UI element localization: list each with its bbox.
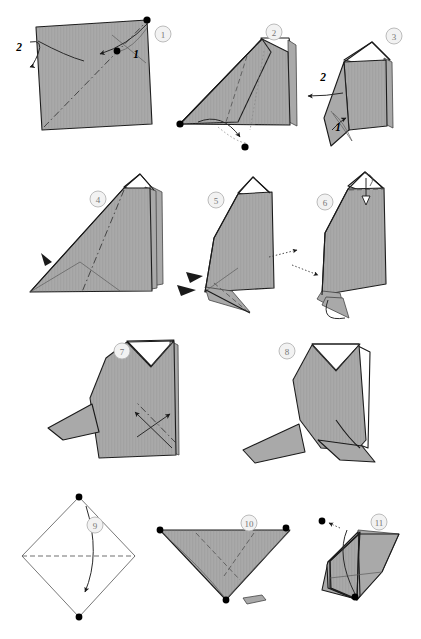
step-3-badge-number: 3 bbox=[392, 32, 397, 42]
step-10-badge: 10 bbox=[241, 515, 257, 531]
step-10-badge-number: 10 bbox=[245, 519, 255, 529]
step-3-texture bbox=[344, 60, 387, 130]
step-6-badge: 6 bbox=[317, 194, 333, 210]
step-2-reference-dot-left bbox=[176, 120, 183, 127]
step-3-badge: 3 bbox=[386, 28, 402, 44]
step-9-reference-dot-top bbox=[76, 494, 83, 501]
step-1-label-2: 2 bbox=[15, 41, 22, 53]
step-8-badge-number: 8 bbox=[285, 347, 290, 357]
step-3-label-1: 1 bbox=[335, 121, 341, 133]
step-3-label-2: 2 bbox=[319, 71, 326, 83]
step-1-badge: 1 bbox=[155, 26, 171, 42]
origami-instruction-diagram: 2 1 1 2 bbox=[0, 0, 421, 639]
diagram-page: 2 1 1 2 bbox=[0, 0, 421, 639]
step-9-badge: 9 bbox=[87, 517, 103, 533]
step-5-badge: 5 bbox=[208, 192, 224, 208]
step-11-badge-number: 11 bbox=[375, 518, 384, 528]
step-9-reference-dot-bottom bbox=[76, 614, 83, 621]
step-4-badge-number: 4 bbox=[96, 195, 101, 205]
step-10-reference-dot-left bbox=[157, 527, 164, 534]
step-6-badge-number: 6 bbox=[323, 198, 328, 208]
step-1-label-1: 1 bbox=[133, 48, 139, 60]
step-7-badge-number: 7 bbox=[120, 347, 125, 357]
step-11-badge: 11 bbox=[371, 514, 387, 530]
step-1-reference-dot-corner bbox=[143, 16, 150, 23]
step-9-badge-number: 9 bbox=[93, 521, 98, 531]
step-4-badge: 4 bbox=[90, 191, 106, 207]
step-8-badge: 8 bbox=[279, 343, 295, 359]
step-10-reference-dot-bottom bbox=[223, 597, 230, 604]
step-11-reference-dot-bottom bbox=[352, 594, 359, 601]
step-5-badge-number: 5 bbox=[214, 196, 219, 206]
step-7-badge: 7 bbox=[114, 343, 130, 359]
step-11-reference-dot-upper bbox=[319, 518, 326, 525]
step-2-badge-number: 2 bbox=[272, 28, 277, 38]
step-2-reference-dot-target bbox=[241, 143, 248, 150]
step-1-reference-dot-mid bbox=[114, 48, 121, 55]
step-1-badge-number: 1 bbox=[161, 30, 166, 40]
step-2-badge: 2 bbox=[266, 24, 282, 40]
step-11-reference-dot-far-left bbox=[283, 525, 290, 532]
step-1-texture bbox=[36, 20, 152, 130]
